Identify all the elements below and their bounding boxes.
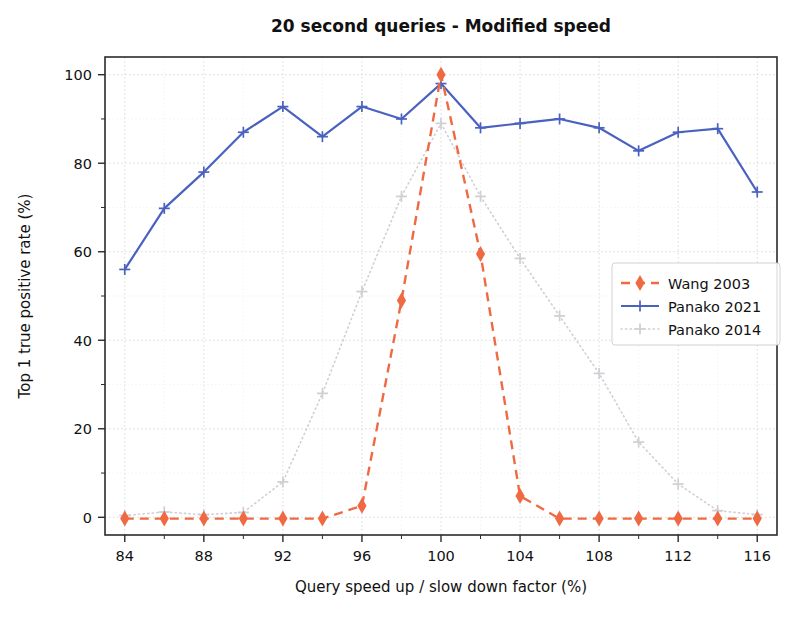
x-tick-label: 100	[427, 548, 455, 564]
x-tick-label: 104	[506, 548, 534, 564]
y-tick-label: 60	[74, 244, 92, 260]
x-tick-label: 96	[353, 548, 371, 564]
y-tick-label: 40	[74, 333, 92, 349]
x-tick-label: 84	[116, 548, 134, 564]
chart-legend[interactable]: Wang 2003Panako 2021Panako 2014	[612, 263, 780, 345]
x-axis-label: Query speed up / slow down factor (%)	[295, 578, 587, 596]
y-tick-label: 100	[64, 67, 92, 83]
line-chart: 20 second queries - Modified speed 84889…	[0, 0, 808, 621]
chart-container: 20 second queries - Modified speed 84889…	[0, 0, 808, 621]
chart-title: 20 second queries - Modified speed	[271, 16, 611, 36]
y-tick-label: 80	[74, 156, 92, 172]
x-tick-label: 112	[664, 548, 692, 564]
x-tick-label: 108	[585, 548, 613, 564]
legend-item-wang-2003[interactable]: Wang 2003	[621, 275, 750, 292]
y-tick-label: 20	[74, 421, 92, 437]
x-tick-label: 92	[274, 548, 292, 564]
y-tick-label: 0	[83, 510, 92, 526]
legend-label: Panako 2021	[668, 299, 761, 315]
legend-label: Panako 2014	[668, 322, 761, 338]
legend-label: Wang 2003	[668, 276, 750, 292]
x-tick-label: 116	[743, 548, 771, 564]
x-tick-label: 88	[195, 548, 213, 564]
y-axis-label: Top 1 true positive rate (%)	[16, 194, 34, 400]
